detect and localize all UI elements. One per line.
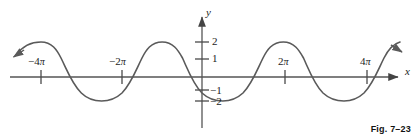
graph-canvas: [0, 0, 417, 138]
figure-container: x y −4π −2π 2π 4π 2 1 −1 −2 Fig. 7–23: [0, 0, 417, 138]
x-tick-label-minus-2pi-number: −2: [109, 55, 121, 67]
x-tick-label-4pi-pi: π: [366, 56, 371, 67]
curve-right-arrow: [391, 45, 402, 52]
x-tick-label-minus-2pi-pi: π: [121, 56, 126, 67]
y-tick-label-1: 1: [212, 53, 218, 64]
cosine-curve: [14, 42, 403, 101]
x-axis-label: x: [405, 66, 410, 77]
y-tick-label-minus-2: −2: [210, 96, 222, 107]
x-tick-label-minus-2pi: −2π: [109, 56, 126, 67]
curve-path: [16, 42, 400, 101]
x-tick-label-minus-4pi-number: −4: [28, 55, 40, 67]
y-axis-label: y: [206, 7, 211, 18]
x-tick-label-2pi: 2π: [278, 56, 289, 67]
x-tick-label-minus-4pi: −4π: [28, 56, 45, 67]
y-axis: [195, 17, 209, 128]
x-tick-label-2pi-pi: π: [284, 56, 289, 67]
x-tick-label-4pi: 4π: [360, 56, 371, 67]
y-tick-label-2: 2: [212, 36, 218, 47]
figure-caption: Fig. 7–23: [371, 124, 411, 134]
x-tick-label-minus-4pi-pi: π: [40, 56, 45, 67]
